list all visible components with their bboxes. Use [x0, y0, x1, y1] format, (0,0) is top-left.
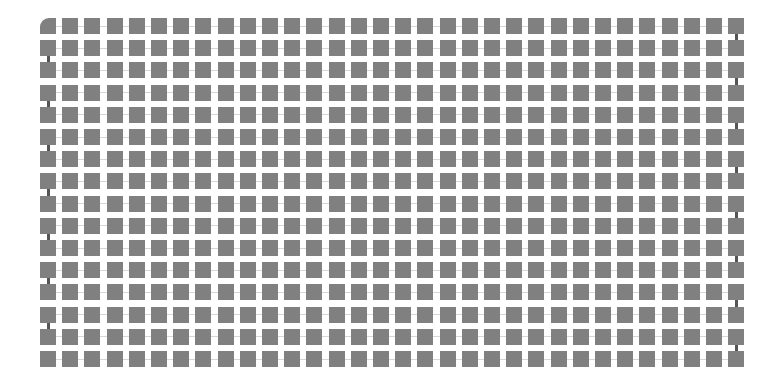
grid-cell [662, 18, 678, 34]
grid-cell [617, 218, 633, 234]
grid-cell [528, 62, 544, 78]
grid-cell [351, 173, 367, 189]
grid-cell [395, 18, 411, 34]
grid-cell [240, 196, 256, 212]
grid-cell [440, 129, 456, 145]
grid-cell [107, 351, 123, 367]
grid-cell [84, 151, 100, 167]
grid-cell [528, 351, 544, 367]
grid-cell [417, 40, 433, 56]
grid-cell [306, 329, 322, 345]
grid-cell [62, 284, 78, 300]
grid-cell [684, 329, 700, 345]
grid-cell [195, 129, 211, 145]
grid-cell [84, 240, 100, 256]
grid-cell [262, 329, 278, 345]
grid-cell [218, 129, 234, 145]
grid-cell [351, 307, 367, 323]
grid-cell [706, 196, 722, 212]
grid-cell [329, 284, 345, 300]
grid-cell [684, 307, 700, 323]
grid-cell [329, 151, 345, 167]
grid-cell [329, 240, 345, 256]
grid-cell [462, 329, 478, 345]
grid-cell [684, 196, 700, 212]
grid-cell [728, 284, 744, 300]
grid-cell [551, 62, 567, 78]
grid-cell [617, 129, 633, 145]
grid-cell [373, 284, 389, 300]
grid-cell [617, 173, 633, 189]
grid-cell [440, 351, 456, 367]
grid-cell [573, 240, 589, 256]
grid-cell [506, 351, 522, 367]
grid-cell [351, 262, 367, 278]
grid-cell [506, 196, 522, 212]
grid-cell [551, 307, 567, 323]
grid-cell [40, 329, 56, 345]
grid-cell [195, 284, 211, 300]
grid-cell [284, 85, 300, 101]
grid-cell [195, 351, 211, 367]
grid-cell [306, 307, 322, 323]
grid-cell [195, 151, 211, 167]
grid-cell [395, 173, 411, 189]
grid-cell [40, 240, 56, 256]
grid-cell [728, 218, 744, 234]
grid-cell [373, 218, 389, 234]
grid-cell [706, 85, 722, 101]
grid-cell [440, 240, 456, 256]
grid-cell [40, 284, 56, 300]
grid-cell [662, 196, 678, 212]
grid-cell [129, 18, 145, 34]
grid-cell [440, 196, 456, 212]
grid-cell [40, 351, 56, 367]
grid-cell [573, 262, 589, 278]
grid-cell [728, 262, 744, 278]
grid-cell [218, 329, 234, 345]
grid-cell [551, 129, 567, 145]
grid-cell [240, 62, 256, 78]
grid-cell [151, 196, 167, 212]
grid-cell [329, 218, 345, 234]
grid-cell [284, 129, 300, 145]
grid-cell [417, 262, 433, 278]
grid-cell [240, 107, 256, 123]
grid-cell [129, 129, 145, 145]
grid-cell [329, 329, 345, 345]
grid-cell [684, 62, 700, 78]
grid-cell [129, 40, 145, 56]
grid-cell [662, 40, 678, 56]
grid-cell [373, 129, 389, 145]
grid-cell [284, 218, 300, 234]
grid-cell [639, 62, 655, 78]
grid-cell [306, 196, 322, 212]
grid-cell [306, 240, 322, 256]
grid-cell [240, 18, 256, 34]
grid-cell [417, 284, 433, 300]
grid-cell [129, 196, 145, 212]
grid-cell [617, 107, 633, 123]
grid-cell [262, 218, 278, 234]
grid-cell-origin [40, 18, 56, 34]
grid-cell [173, 107, 189, 123]
grid-cell [573, 173, 589, 189]
grid-cell [262, 62, 278, 78]
grid-cell [84, 107, 100, 123]
grid-cell [129, 151, 145, 167]
grid-cell [484, 151, 500, 167]
grid-cell [173, 40, 189, 56]
grid-cell [506, 307, 522, 323]
grid-cell [218, 307, 234, 323]
grid-cell [306, 40, 322, 56]
grid-cell [107, 240, 123, 256]
grid-cell [218, 62, 234, 78]
grid-cell [728, 307, 744, 323]
grid-cell [395, 329, 411, 345]
grid-cell [706, 129, 722, 145]
grid-cell [528, 240, 544, 256]
grid-cell [484, 173, 500, 189]
grid-cell [551, 284, 567, 300]
grid-cell [462, 262, 478, 278]
grid-cell [573, 62, 589, 78]
